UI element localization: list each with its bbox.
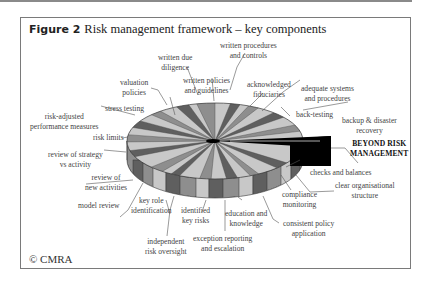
label-clear-organisational: clear organisationalstructure bbox=[335, 181, 395, 200]
label-independent-oversight: independentrisk oversight bbox=[145, 237, 187, 256]
label-key-role: key roleidentification bbox=[131, 196, 172, 215]
label-beyond-risk-management: BEYOND RISKMANAGEMENT bbox=[350, 139, 408, 158]
label-valuation-policies: valuationpolicies bbox=[120, 78, 148, 97]
label-identified-key-risks: identifiedkey risks bbox=[181, 206, 210, 225]
label-exception-reporting: exception reportingand escalation bbox=[193, 234, 252, 253]
label-compliance-monitoring: compliancemonitoring bbox=[282, 190, 317, 209]
label-acknowledged-fiduciaries: acknowledgedfiduciaries bbox=[247, 80, 291, 99]
label-checks-balances: checks and balances bbox=[310, 168, 372, 178]
label-risk-limits: risk limits bbox=[93, 133, 124, 143]
label-consistent-policy: consistent policyapplication bbox=[283, 219, 334, 238]
label-risk-adjusted: risk-adjustedperformance measures bbox=[30, 112, 99, 131]
copyright-notice: © CMRA bbox=[29, 253, 73, 265]
label-review-new-activities: review ofnew activities bbox=[85, 173, 127, 192]
label-adequate-systems: adequate systemsand procedures bbox=[301, 84, 354, 103]
label-stress-testing: stress testing bbox=[105, 104, 144, 114]
label-back-testing: back-testing bbox=[296, 110, 333, 120]
label-written-due-diligence: written duediligence bbox=[158, 53, 192, 72]
label-review-strategy: review of strategyvs activity bbox=[48, 150, 103, 169]
label-model-review: model review bbox=[78, 201, 120, 211]
label-education-knowledge: education andknowledge bbox=[225, 209, 267, 228]
label-written-policies: written policiesand guidelines bbox=[183, 76, 230, 95]
label-written-procedures: written proceduresand controls bbox=[220, 41, 277, 60]
label-backup-recovery: backup & disasterrecovery bbox=[342, 116, 397, 135]
